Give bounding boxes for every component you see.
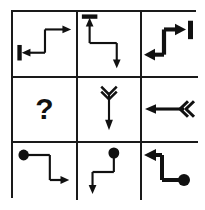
cell-r3c2[interactable]	[78, 143, 142, 200]
puzzle-root: ?	[0, 0, 205, 210]
matrix-grid: ?	[11, 10, 196, 198]
cell-r3c3[interactable]	[142, 143, 198, 200]
cell-r1c1[interactable]	[13, 12, 78, 78]
arrow-dot-to-left-icon	[142, 143, 198, 200]
cell-r1c3[interactable]	[142, 12, 198, 78]
arrow-elbow-bar-right-icon	[13, 12, 76, 76]
arrow-dot-to-right-icon	[13, 143, 76, 200]
cell-r2c2[interactable]	[78, 78, 142, 143]
arrow-left-chevron-tail-icon	[142, 78, 198, 141]
arrow-dot-to-down-icon	[78, 143, 140, 200]
cell-r2c1-missing[interactable]: ?	[13, 78, 78, 143]
cell-r1c2[interactable]	[78, 12, 142, 78]
arrow-elbow-bar-left-icon	[142, 12, 198, 76]
cell-r3c1[interactable]	[13, 143, 78, 200]
arrow-elbow-bar-down-icon	[78, 12, 140, 76]
arrow-down-chevron-tail-icon	[78, 78, 140, 141]
question-mark-label: ?	[13, 78, 76, 141]
cell-r2c3[interactable]	[142, 78, 198, 143]
